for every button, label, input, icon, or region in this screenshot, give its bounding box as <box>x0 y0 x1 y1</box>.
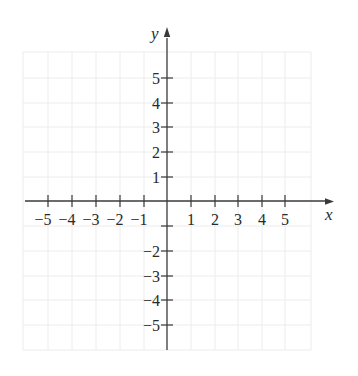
x-tick-label: 3 <box>234 211 242 228</box>
x-axis-label: x <box>324 205 333 224</box>
y-tick-labels: 5 4 3 2 1 −2 −3 −4 −5 <box>143 70 160 334</box>
y-tick-label: −4 <box>143 292 160 309</box>
x-tick-label: −3 <box>82 211 99 228</box>
x-tick-label: 4 <box>258 211 266 228</box>
y-tick-label: 1 <box>152 169 160 186</box>
y-tick-label: −5 <box>143 317 160 334</box>
x-tick-label: −5 <box>34 211 51 228</box>
x-tick-label: 1 <box>187 211 195 228</box>
x-tick-label: −1 <box>130 211 147 228</box>
coordinate-plane: x y −5 −4 −3 −2 −1 1 2 3 4 5 <box>0 0 358 376</box>
x-tick-label: −2 <box>106 211 123 228</box>
x-axis-arrow-icon <box>325 198 334 204</box>
x-tick-label: 2 <box>211 211 219 228</box>
y-tick-label: 2 <box>152 144 160 161</box>
y-tick-label: 4 <box>152 95 160 112</box>
y-tick-label: 5 <box>152 70 160 87</box>
y-tick-label: −2 <box>143 243 160 260</box>
y-axis-arrow-icon <box>164 27 170 37</box>
x-tick-label: 5 <box>281 211 289 228</box>
y-tick-label: 3 <box>152 119 160 136</box>
x-tick-label: −4 <box>58 211 75 228</box>
y-tick-label: −3 <box>143 268 160 285</box>
y-axis-label: y <box>149 24 159 43</box>
